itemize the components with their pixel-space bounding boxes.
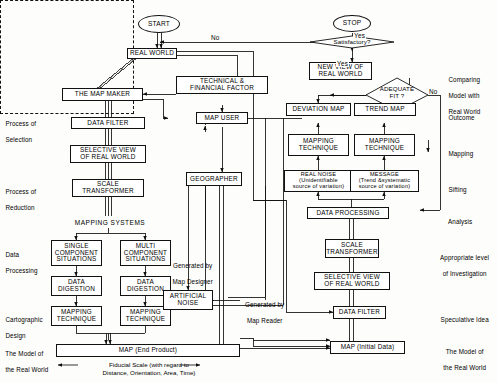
- edge-label-yes-adequate: Yes: [336, 60, 349, 67]
- fiducial-arrow-layer: [0, 0, 497, 383]
- fid-l2: Distance, Orientation, Area, Time): [103, 369, 196, 376]
- edge-label-yes-stop: Yes: [353, 32, 366, 39]
- flowchart-canvas: START STOP REAL WORLD THE MAP MAKER TECH…: [0, 0, 497, 383]
- fid-l1: Fiducial Scale (with regard to: [109, 361, 189, 368]
- edge-label-no-top: No: [210, 34, 221, 41]
- edge-label-no-adequate: No: [428, 88, 439, 95]
- fiducial-scale-caption: Fiducial Scale (with regard to Distance,…: [60, 361, 238, 377]
